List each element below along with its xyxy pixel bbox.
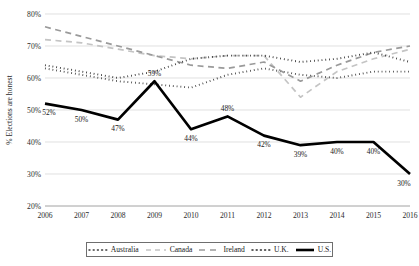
dashed-line-swatch-icon [198, 246, 220, 254]
data-point-label: 59% [148, 69, 162, 78]
x-axis-tick-label: 2010 [183, 211, 198, 220]
data-point-label: 47% [111, 124, 125, 133]
legend-item-canada[interactable]: Canada [145, 246, 193, 254]
y-axis-tick-label: 80% [27, 10, 42, 19]
data-point-label: 30% [397, 179, 411, 188]
chart-plot-area: 20%30%40%50%60%70%80%2006200720082009201… [0, 0, 419, 266]
dashed-line-swatch-icon [145, 246, 167, 254]
data-point-label: 40% [330, 147, 344, 156]
data-point-label: 52% [42, 108, 56, 117]
data-point-label: 50% [75, 115, 89, 124]
dotted-line-swatch-icon [251, 246, 271, 254]
x-axis-tick-label: 2006 [37, 211, 52, 220]
legend-label: Ireland [223, 246, 245, 254]
y-axis-tick-label: 40% [27, 138, 42, 147]
series-line-us [45, 81, 410, 174]
x-axis-tick-label: 2016 [402, 211, 417, 220]
data-point-label: 48% [221, 104, 235, 113]
y-axis-tick-label: 50% [27, 106, 42, 115]
y-axis-tick-label: 30% [27, 170, 42, 179]
data-point-label: 39% [294, 150, 308, 159]
data-point-label: 42% [257, 140, 271, 149]
x-axis-tick-label: 2013 [293, 211, 308, 220]
x-axis-tick-label: 2009 [147, 211, 162, 220]
legend-item-ireland[interactable]: Ireland [198, 246, 245, 254]
data-point-label: 44% [184, 134, 198, 143]
x-axis-tick-label: 2008 [110, 211, 125, 220]
x-axis-tick-label: 2015 [366, 211, 381, 220]
legend-label: Australia [111, 246, 139, 254]
legend-label: U.S. [318, 246, 332, 254]
y-axis-tick-label: 70% [27, 42, 42, 51]
solid-line-swatch-icon [295, 246, 315, 254]
x-axis-tick-label: 2012 [256, 211, 271, 220]
line-chart: 20%30%40%50%60%70%80%2006200720082009201… [0, 0, 419, 266]
series-line-canada [45, 40, 410, 98]
chart-legend: Australia Canada Ireland U.K. U.S. [86, 242, 333, 257]
x-axis-tick-label: 2011 [220, 211, 235, 220]
dotted-line-swatch-icon [88, 246, 108, 254]
series-line-ireland [45, 27, 410, 81]
data-point-label: 40% [367, 147, 381, 156]
y-axis-tick-label: 60% [27, 74, 42, 83]
x-axis-tick-label: 2007 [74, 211, 89, 220]
legend-item-us[interactable]: U.S. [295, 246, 332, 254]
legend-label: U.K. [274, 246, 289, 254]
legend-item-australia[interactable]: Australia [88, 246, 139, 254]
x-axis-tick-label: 2014 [329, 211, 344, 220]
y-axis-title: % Elections are honest [5, 74, 14, 144]
y-axis-tick-label: 20% [27, 202, 42, 211]
legend-label: Canada [170, 246, 193, 254]
legend-item-uk[interactable]: U.K. [251, 246, 289, 254]
